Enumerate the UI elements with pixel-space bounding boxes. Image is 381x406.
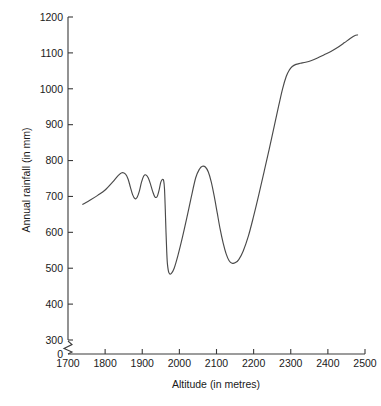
y-tick-label: 500 (45, 262, 63, 274)
x-tick-label: 2300 (279, 357, 303, 369)
y-tick-label: 300 (45, 334, 63, 346)
y-axis-group: 0300400500600700800900100011001200 (40, 11, 73, 360)
x-tick-label: 2100 (205, 357, 229, 369)
x-axis-title: Altitude (in metres) (172, 378, 260, 390)
y-tick-label: 700 (45, 190, 63, 202)
x-tick-label: 2400 (316, 357, 340, 369)
chart-page: 0300400500600700800900100011001200 17001… (0, 0, 381, 406)
x-tick-label: 1900 (131, 357, 155, 369)
y-tick-label: 1100 (40, 47, 63, 59)
rainfall-altitude-line-chart: 0300400500600700800900100011001200 17001… (0, 0, 381, 406)
y-tick-label: 600 (45, 226, 63, 238)
y-tick-label: 400 (45, 298, 63, 310)
x-tick-label: 1800 (93, 357, 117, 369)
x-tick-marks (105, 349, 365, 354)
y-axis-break-icon (64, 341, 72, 354)
x-tick-label: 2500 (353, 357, 377, 369)
y-axis-title: Annual rainfall (in mm) (20, 127, 32, 232)
rainfall-curve (83, 35, 358, 274)
y-tick-label: 800 (45, 154, 63, 166)
y-tick-label: 1200 (40, 11, 64, 23)
y-tick-label: 1000 (40, 83, 64, 95)
x-tick-label: 1700 (56, 357, 80, 369)
y-tick-labels: 0300400500600700800900100011001200 (40, 11, 64, 360)
y-tick-label: 900 (45, 118, 63, 130)
x-tick-labels: 170018001900200021002200230024002500 (56, 357, 377, 369)
x-tick-label: 2000 (168, 357, 192, 369)
x-axis-group: 170018001900200021002200230024002500 (56, 349, 377, 369)
x-tick-label: 2200 (242, 357, 266, 369)
y-tick-marks (68, 17, 73, 340)
